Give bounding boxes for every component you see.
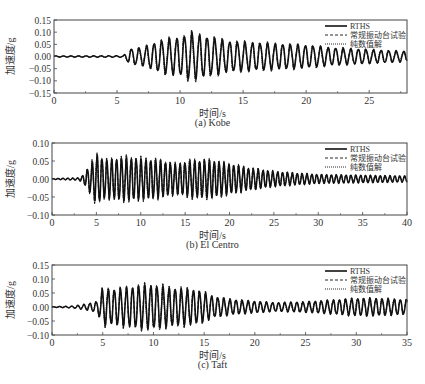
legend-label: 纯数值解: [350, 39, 382, 49]
ytick-label: −0.05: [27, 317, 49, 327]
ytick-label: −0.10: [27, 331, 49, 341]
legend-label: RTHS: [350, 145, 370, 154]
figure-caption-faint: [0, 372, 425, 381]
legend-label: RTHS: [350, 22, 370, 31]
ytick-label: −0.05: [29, 64, 51, 74]
ytick-label: 0.00: [32, 303, 49, 313]
ytick-label: 0.10: [32, 139, 49, 149]
ytick-label: 0.05: [32, 157, 49, 167]
legend-label: 纯数值解: [350, 284, 382, 294]
ytick-label: 0.15: [32, 261, 49, 271]
caption-elcentro: (b) El Centro: [0, 239, 425, 250]
ytick-label: 0.05: [34, 40, 51, 50]
ytick-label: −0.15: [29, 89, 51, 99]
ytick-label: 0.15: [34, 16, 51, 26]
ytick-label: 0.00: [34, 52, 51, 62]
ytick-label: 0.10: [32, 275, 49, 285]
legend-label: 常规振动台试验: [350, 153, 406, 163]
ylabel: 加速度/g: [4, 281, 16, 319]
caption-taft: (c) Taft: [0, 359, 425, 370]
ytick-label: −0.10: [29, 76, 51, 86]
legend-label: 常规振动台试验: [350, 30, 406, 40]
ytick-label: −0.05: [27, 193, 49, 203]
legend-label: 纯数值解: [350, 162, 382, 172]
ytick-label: 0.05: [32, 289, 49, 299]
ylabel: 加速度/g: [4, 160, 16, 198]
legend-label: RTHS: [350, 267, 370, 276]
legend-label: 常规振动台试验: [350, 275, 406, 285]
ytick-label: 0.10: [34, 28, 51, 38]
ytick-label: −0.10: [27, 211, 49, 221]
ytick-label: 0.00: [32, 175, 49, 185]
ylabel: 加速度/g: [4, 38, 16, 76]
